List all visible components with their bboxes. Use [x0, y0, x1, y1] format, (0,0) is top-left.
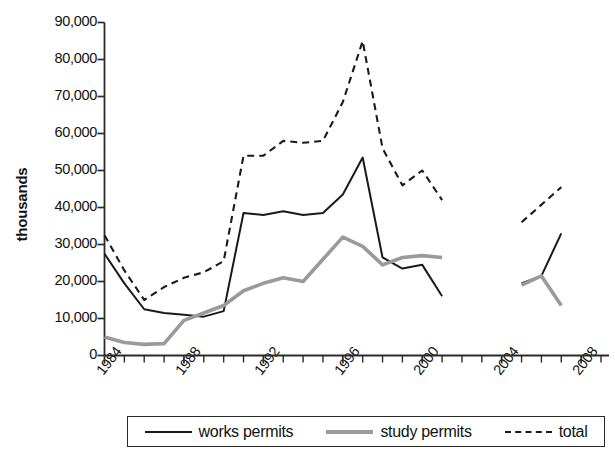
- plot-area: [0, 0, 615, 449]
- y-axis-ticks: [98, 23, 105, 356]
- series-line-study-permits: [105, 237, 443, 344]
- legend-swatch-gray-line-icon: [326, 430, 373, 434]
- legend-swatch-solid-line-icon: [145, 431, 192, 433]
- legend-label-works-permits: works permits: [199, 423, 294, 441]
- chart-legend: works permits study permits total: [127, 416, 605, 447]
- data-series-group: [105, 41, 562, 344]
- legend-item-total: total: [505, 423, 588, 441]
- legend-label-study-permits: study permits: [380, 423, 471, 441]
- legend-item-study-permits: study permits: [326, 423, 471, 441]
- legend-label-total: total: [559, 423, 588, 441]
- line-chart: thousands 010,00020,00030,00040,00050,00…: [0, 0, 615, 449]
- axis-lines: [105, 23, 610, 356]
- legend-item-works-permits: works permits: [145, 423, 294, 441]
- legend-swatch-dashed-line-icon: [505, 431, 552, 433]
- series-line-total: [522, 187, 562, 222]
- x-axis-ticks: [105, 356, 602, 364]
